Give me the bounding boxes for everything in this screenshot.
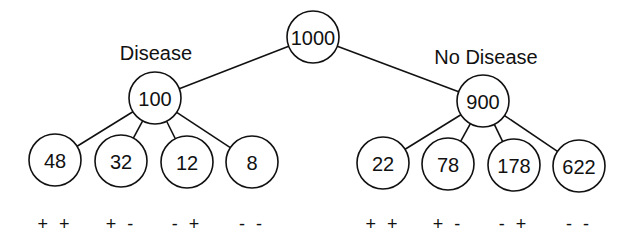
test-result-sign: - + (499, 214, 530, 234)
node-count: 900 (466, 91, 499, 113)
no-disease-leaf-node: 22 (357, 137, 409, 189)
test-result-sign: + - (106, 214, 137, 234)
edge-no-disease-leaf (494, 124, 502, 141)
node-count: 8 (246, 152, 257, 174)
disease-node: 100 (129, 72, 181, 124)
root-node: 1000 (287, 11, 339, 63)
no-disease-leaf-node: 622 (553, 140, 605, 192)
test-result-sign: + + (365, 214, 400, 234)
tree-nodes: 100010048321289002278178622 (29, 11, 605, 192)
disease-leaf-node: 8 (226, 136, 278, 188)
edge-root-to-disease (179, 46, 288, 88)
test-result-sign: + + (37, 214, 72, 234)
node-count: 48 (44, 150, 66, 172)
no-disease-node: 900 (457, 75, 509, 127)
node-count: 12 (176, 152, 198, 174)
node-count: 1000 (291, 27, 336, 49)
no-disease-label: No Disease (434, 46, 537, 68)
test-result-sign: + - (433, 214, 464, 234)
edge-no-disease-leaf (461, 124, 471, 142)
node-count: 100 (138, 88, 171, 110)
node-count: 78 (437, 154, 459, 176)
node-count: 32 (110, 151, 132, 173)
disease-leaf-node: 32 (95, 135, 147, 187)
node-count: 178 (497, 155, 530, 177)
test-result-sign: - + (172, 214, 203, 234)
disease-leaf-node: 48 (29, 134, 81, 186)
test-result-sign: - - (239, 214, 265, 234)
edge-disease-leaf (133, 121, 142, 138)
edge-disease-leaf (167, 121, 176, 138)
node-count: 622 (562, 156, 595, 178)
no-disease-leaf-node: 78 (422, 138, 474, 190)
disease-leaf-node: 12 (161, 136, 213, 188)
disease-label: Disease (120, 42, 192, 64)
node-count: 22 (372, 153, 394, 175)
test-result-sign: - - (566, 214, 592, 234)
no-disease-leaf-node: 178 (488, 139, 540, 191)
probability-tree-diagram: 100010048321289002278178622 Disease+ ++ … (0, 0, 644, 245)
